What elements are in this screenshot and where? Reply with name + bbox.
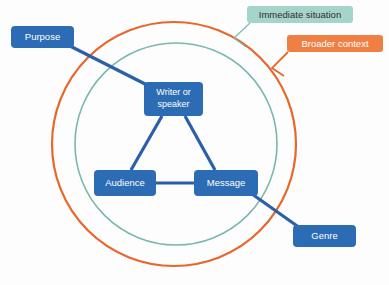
diagram-canvas: PurposeWriter orspeakerAudienceMessageGe… — [0, 0, 389, 285]
context-label-immediate-situation-label: Immediate situation — [247, 6, 353, 23]
node-label-writer-or-speaker: speaker — [157, 99, 189, 109]
context-labels: Immediate situationBroader context — [247, 6, 383, 52]
node-message[interactable]: Message — [194, 170, 258, 196]
rhetorical-situation-diagram: PurposeWriter orspeakerAudienceMessageGe… — [0, 0, 389, 285]
connector-writer-to-audience — [131, 116, 162, 170]
node-label-purpose: Purpose — [25, 31, 60, 42]
ring-immediate-situation — [75, 43, 277, 245]
node-audience[interactable]: Audience — [94, 170, 156, 196]
context-label-text-broader-context-label: Broader context — [301, 38, 368, 49]
ring-broader-context — [52, 22, 296, 266]
context-label-broader-context-label: Broader context — [287, 35, 383, 52]
node-label-message: Message — [207, 177, 246, 188]
leader-line-broader-context — [272, 52, 288, 76]
connector-purpose-to-writer — [70, 46, 151, 87]
context-label-text-immediate-situation-label: Immediate situation — [259, 9, 341, 20]
node-label-genre: Genre — [311, 230, 337, 241]
node-label-writer-or-speaker: Writer or — [156, 87, 190, 97]
connector-message-to-genre — [252, 194, 300, 228]
node-purpose[interactable]: Purpose — [11, 26, 74, 48]
connector-writer-to-message — [185, 116, 215, 170]
nodes: PurposeWriter orspeakerAudienceMessageGe… — [11, 26, 356, 247]
node-writer-or-speaker[interactable]: Writer orspeaker — [144, 82, 203, 116]
leader-line-immediate-situation — [234, 23, 250, 47]
node-label-audience: Audience — [105, 177, 145, 188]
node-genre[interactable]: Genre — [293, 225, 356, 247]
